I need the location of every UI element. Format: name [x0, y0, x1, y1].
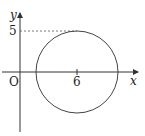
y-tick-label-5: 5: [9, 24, 17, 38]
y-axis-label: y: [9, 8, 17, 22]
x-axis-label: x: [130, 74, 137, 88]
origin-label: O: [9, 75, 19, 89]
x-tick-label-6: 6: [73, 75, 81, 89]
diagram-canvas: y 5 O 6 x: [0, 0, 145, 136]
